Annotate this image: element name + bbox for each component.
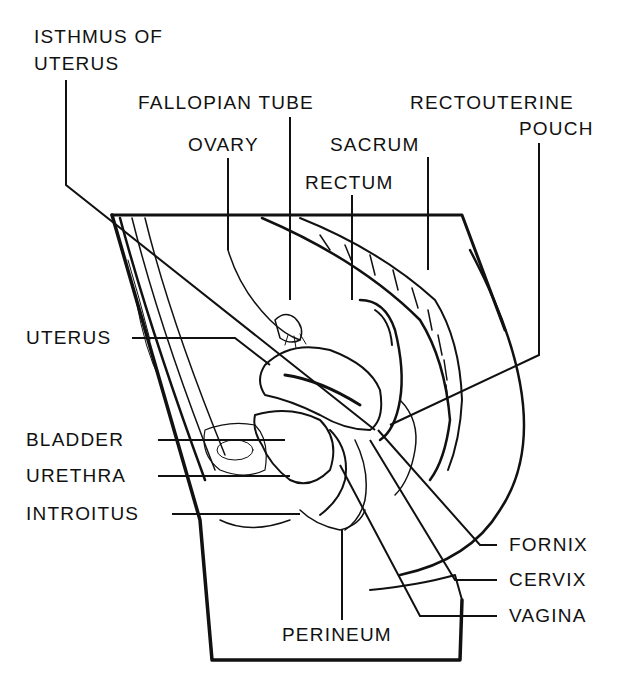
label-sacrum: SACRUM [330,135,420,155]
label-isthmus-line1: ISTHMUS OF [34,27,163,47]
label-fornix: FORNIX [509,535,588,555]
label-vagina: VAGINA [509,606,587,626]
leader-rectouterine-pouch [390,143,539,425]
label-ovary: OVARY [188,135,259,155]
label-perineum: PERINEUM [282,625,392,645]
uterus-shape [260,347,381,430]
label-rectum: RECTUM [305,173,393,193]
leader-fornix [378,430,497,545]
label-uterus: UTERUS [26,328,111,348]
label-urethra: URETHRA [26,466,126,486]
label-bladder: BLADDER [26,430,124,450]
label-rectouterine-line1: RECTOUTERINE [410,93,574,113]
label-introitus: INTROITUS [26,504,139,524]
leader-isthmus [66,80,375,430]
frame-outline [112,215,505,330]
label-fallopian-tube: FALLOPIAN TUBE [138,93,314,113]
label-rectouterine-line2: POUCH [519,119,594,139]
label-cervix: CERVIX [509,570,587,590]
label-isthmus-line2: UTERUS [34,54,119,74]
